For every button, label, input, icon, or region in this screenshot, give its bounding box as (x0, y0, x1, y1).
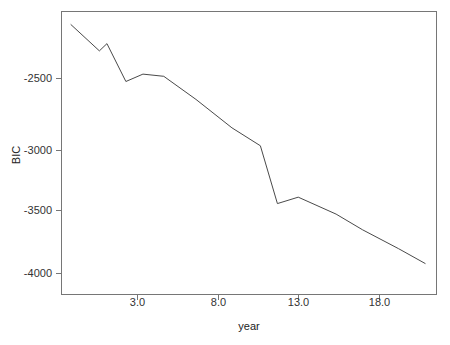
x-tick-label-18: 18.0 (369, 296, 390, 308)
y-tick-label-3000: -3000 (24, 144, 52, 156)
y-tick-label-4000: -4000 (24, 267, 52, 279)
plot-frame (62, 12, 437, 295)
chart-figure: -2500 -3000 -3500 -4000 3.0 8.0 13.0 18.… (0, 0, 450, 345)
y-tick-label-3500: -3500 (24, 204, 52, 216)
x-tick-label-13: 13.0 (288, 296, 309, 308)
y-axis-title: BIC (10, 146, 22, 164)
bic-series-line (71, 25, 425, 264)
x-tick-label-3: 3.0 (130, 296, 145, 308)
y-tick-label-2500: -2500 (24, 72, 52, 84)
bic-vs-year-line-chart: -2500 -3000 -3500 -4000 3.0 8.0 13.0 18.… (0, 0, 450, 345)
x-tick-marks (138, 295, 380, 301)
y-tick-marks (56, 79, 62, 274)
x-tick-label-8: 8.0 (211, 296, 226, 308)
x-axis-title: year (238, 320, 260, 332)
